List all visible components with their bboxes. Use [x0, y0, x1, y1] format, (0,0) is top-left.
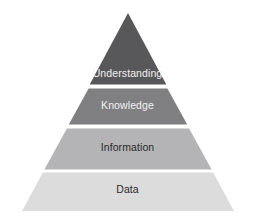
pyramid-tier-data-label: Data	[0, 184, 255, 195]
dikw-pyramid-diagram: Understanding Knowledge Information Data	[0, 0, 255, 222]
pyramid-tier-understanding-label: Understanding	[0, 68, 255, 79]
pyramid-tier-knowledge-label: Knowledge	[0, 100, 255, 111]
pyramid-tier-information-label: Information	[0, 142, 255, 153]
